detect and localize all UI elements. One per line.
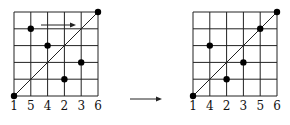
axis-label: 1 [10, 99, 18, 113]
axis-label: 1 [189, 99, 197, 113]
grid-before: 154236 [10, 9, 102, 113]
dot [28, 26, 34, 32]
dot [95, 9, 101, 15]
dot [257, 26, 263, 32]
dot [223, 76, 229, 82]
axis-label: 6 [94, 99, 102, 113]
dot [240, 59, 246, 65]
arrow-right-icon [156, 97, 162, 102]
axis-label: 2 [61, 99, 69, 113]
axis-label: 6 [273, 99, 281, 113]
dot [78, 59, 84, 65]
axis-label: 2 [223, 99, 231, 113]
dot [44, 42, 50, 48]
dot [61, 76, 67, 82]
diagonal-line [193, 12, 277, 96]
dot [274, 9, 280, 15]
axis-label: 3 [77, 99, 85, 113]
axis-label: 4 [44, 99, 52, 113]
permutation-diagram: 154236142356 [0, 0, 290, 125]
axis-label: 3 [240, 99, 248, 113]
grid-after: 142356 [189, 9, 281, 113]
axis-label: 5 [256, 99, 264, 113]
arrow-head-icon [70, 23, 76, 28]
axis-label: 4 [206, 99, 214, 113]
dot [207, 42, 213, 48]
axis-label: 5 [27, 99, 35, 113]
